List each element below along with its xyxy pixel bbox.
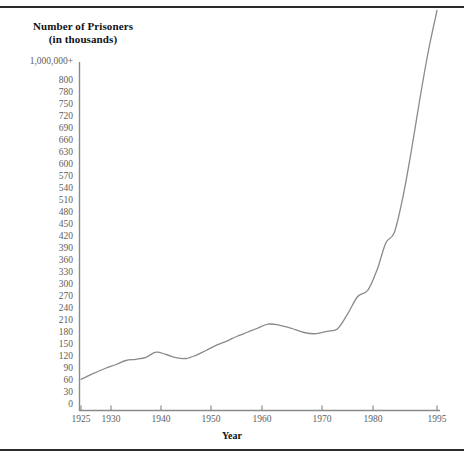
- y-tick-label: 60: [0, 375, 73, 385]
- data-series-group: [81, 11, 437, 380]
- y-tick-label: 540: [0, 183, 73, 193]
- x-tick-label: 1995: [412, 414, 462, 424]
- y-tick-label: 150: [0, 339, 73, 349]
- y-tick-label: 750: [0, 99, 73, 109]
- y-tick-label: 90: [0, 363, 73, 373]
- x-tick-label: 1960: [237, 414, 287, 424]
- y-tick-label: 800: [0, 75, 73, 85]
- prisoners-line: [81, 11, 437, 380]
- y-tick-label: 390: [0, 243, 73, 253]
- y-tick-label: 690: [0, 123, 73, 133]
- x-tick-label: 1970: [297, 414, 347, 424]
- y-tick-label: 780: [0, 87, 73, 97]
- y-tick-label: 240: [0, 303, 73, 313]
- y-tick-label: 210: [0, 315, 73, 325]
- y-tick-label: 480: [0, 207, 73, 217]
- y-tick-label: 720: [0, 111, 73, 121]
- y-tick-label: 180: [0, 327, 73, 337]
- axis-lines: [79, 62, 440, 411]
- y-tick-label: 510: [0, 195, 73, 205]
- y-tick-label: 570: [0, 171, 73, 181]
- y-tick-label: 0: [0, 399, 73, 409]
- y-tick-label: 420: [0, 231, 73, 241]
- x-tick-label: 1940: [136, 414, 186, 424]
- y-tick-label: 450: [0, 219, 73, 229]
- x-axis-title: Year: [0, 430, 464, 441]
- y-tick-label: 300: [0, 279, 73, 289]
- y-tick-label: 120: [0, 351, 73, 361]
- x-tick-label: 1980: [348, 414, 398, 424]
- x-tick-marks: [81, 406, 437, 411]
- y-tick-label: 30: [0, 387, 73, 397]
- y-tick-label: 660: [0, 135, 73, 145]
- y-tick-label: 1,000,000+: [0, 56, 73, 66]
- x-tick-label: 1930: [86, 414, 136, 424]
- y-tick-label: 360: [0, 255, 73, 265]
- x-tick-label: 1950: [186, 414, 236, 424]
- y-tick-label: 330: [0, 267, 73, 277]
- y-tick-label: 270: [0, 291, 73, 301]
- y-tick-label: 600: [0, 159, 73, 169]
- figure-container: Number of Prisoners (in thousands) 1,000…: [0, 0, 464, 466]
- y-tick-label: 630: [0, 147, 73, 157]
